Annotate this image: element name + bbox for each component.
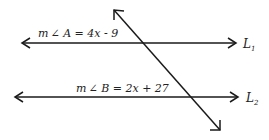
transversal-line [114, 10, 220, 130]
angle-b-equation: m∠ B = 2x + 27 [76, 82, 169, 95]
line-l1-label: L1 [242, 37, 255, 53]
line-l2-label: L2 [245, 91, 259, 107]
angle-a-equation: m∠ A = 4x - 9 [38, 27, 118, 40]
parallel-lines-diagram: m∠ A = 4x - 9 m∠ B = 2x + 27 L1 L2 [0, 0, 269, 140]
